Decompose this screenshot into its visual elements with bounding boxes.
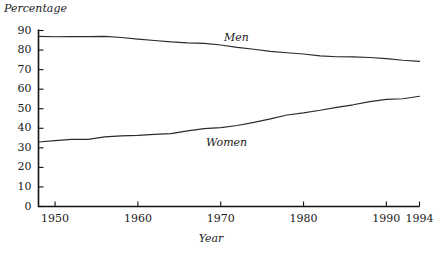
series-line-women xyxy=(39,96,420,142)
plot-area xyxy=(0,0,438,257)
line-chart: Percentage Year 0102030405060708090 1950… xyxy=(0,0,438,257)
chart-axes xyxy=(39,30,420,207)
series-line-men xyxy=(39,36,420,61)
axis-lines xyxy=(39,30,420,207)
chart-series xyxy=(39,36,420,142)
